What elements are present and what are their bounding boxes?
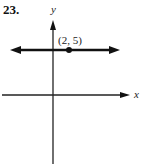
right-arrow-icon	[109, 46, 120, 54]
x-axis-arrow-icon	[120, 92, 130, 98]
y-axis	[50, 20, 56, 164]
point-marker	[66, 47, 72, 53]
horizontal-line	[10, 46, 120, 54]
coordinate-graph	[0, 0, 142, 164]
left-arrow-icon	[10, 46, 21, 54]
x-axis	[2, 92, 130, 98]
y-axis-arrow-icon	[50, 20, 56, 30]
